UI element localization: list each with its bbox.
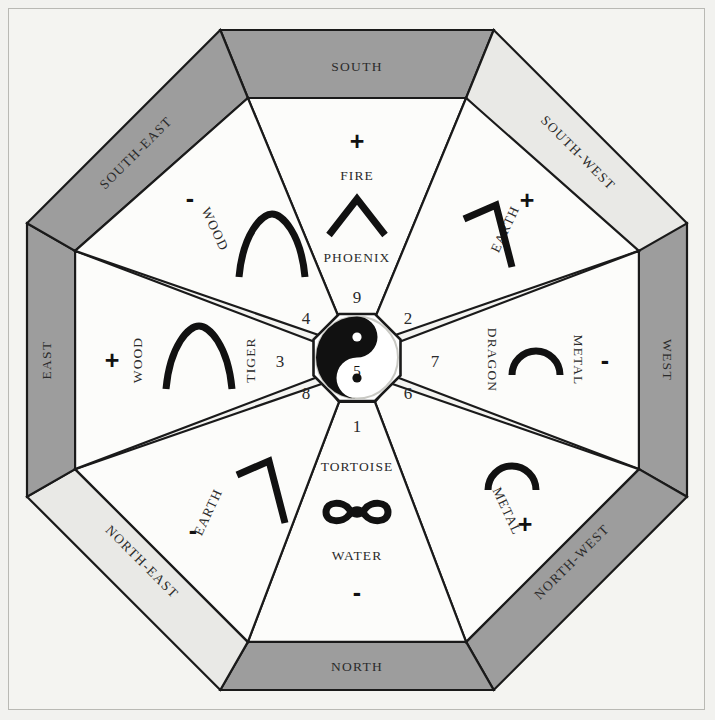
number-north-east: 8 <box>302 384 311 403</box>
number-south-west: 2 <box>404 309 413 328</box>
animal-east: TIGER <box>243 337 258 382</box>
polarity-east: + <box>105 346 120 374</box>
ring-label-north: NORTH <box>331 659 383 674</box>
number-south-east: 4 <box>302 309 311 328</box>
ring-sector-east[interactable]: EAST <box>27 223 75 496</box>
animal-south: PHOENIX <box>324 250 391 265</box>
ring-sector-south[interactable]: SOUTH <box>220 30 493 98</box>
center-medallion[interactable]: 5 <box>314 314 401 401</box>
diagram-frame: SOUTH SOUTH-WEST WEST NORTH-WEST NORTH N… <box>8 8 705 710</box>
polarity-west: - <box>601 346 609 374</box>
bagua-diagram: SOUTH SOUTH-WEST WEST NORTH-WEST NORTH N… <box>9 9 706 711</box>
element-south: FIRE <box>340 168 374 183</box>
number-north-west: 6 <box>404 384 413 403</box>
polarity-south-east: - <box>186 184 194 212</box>
ring-label-south: SOUTH <box>331 59 383 74</box>
yin-yang-icon <box>316 317 398 399</box>
center-number: 5 <box>353 363 361 379</box>
number-north: 1 <box>353 417 362 436</box>
element-north: WATER <box>332 548 383 563</box>
animal-west: DRAGON <box>485 328 500 392</box>
ring-sector-north[interactable]: NORTH <box>220 642 493 690</box>
ring-sector-west[interactable]: WEST <box>639 223 687 496</box>
number-south: 9 <box>353 288 362 307</box>
animal-north: TORTOISE <box>321 459 394 474</box>
number-west: 7 <box>431 352 440 371</box>
polarity-south: + <box>350 127 365 155</box>
ring-label-east: EAST <box>39 341 54 380</box>
element-east: WOOD <box>130 337 145 383</box>
element-west: METAL <box>571 335 586 386</box>
ring-label-west: WEST <box>660 339 675 381</box>
polarity-north: - <box>353 578 361 606</box>
number-east: 3 <box>276 352 285 371</box>
